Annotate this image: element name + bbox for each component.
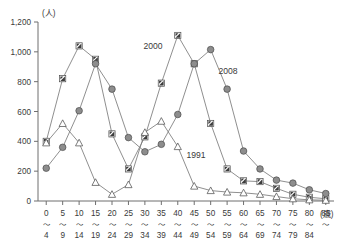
- x-axis-tick-range-tilde: 〜: [76, 220, 84, 229]
- x-axis-tick-label-start: 70: [272, 209, 282, 218]
- x-axis-tick-label-start: 15: [91, 209, 101, 218]
- y-axis-tick-label: 400: [17, 137, 31, 146]
- series-line-2000: [46, 35, 326, 198]
- series-line-group: [46, 35, 326, 200]
- x-axis-tick-range-tilde: 〜: [306, 220, 314, 229]
- series-annotation-2008: 2008: [218, 66, 237, 76]
- x-axis-tick-label-start: 0: [44, 209, 49, 218]
- y-axis-tick-label: 200: [17, 167, 31, 176]
- x-axis-unit-label: (歳): [320, 209, 334, 219]
- x-axis-tick-range-tilde: 〜: [59, 220, 67, 229]
- x-axis-tick-label-end: 44: [173, 231, 183, 240]
- data-point-2000-55: [224, 166, 230, 172]
- data-point-1991-20: [108, 191, 115, 198]
- data-point-2000-60: [240, 178, 246, 184]
- x-axis-tick-label-start: 80: [305, 209, 315, 218]
- series-marker-group: [43, 32, 330, 203]
- x-axis-label-group: 0〜45〜910〜1415〜1920〜2425〜2930〜3435〜3940〜4…: [43, 209, 331, 240]
- data-point-2008-40: [174, 111, 181, 118]
- x-axis-tick-label-start: 65: [255, 209, 265, 218]
- data-point-2008-75: [290, 180, 297, 187]
- line-chart: 02004006008001,0001,200 0〜45〜910〜1415〜19…: [0, 0, 347, 251]
- data-point-2008-80: [306, 187, 313, 194]
- data-point-2008-70: [273, 177, 280, 184]
- data-point-1991-5: [59, 120, 66, 127]
- y-axis-tick-label: 1,200: [11, 18, 32, 27]
- x-axis-tick-label-start: 50: [206, 209, 216, 218]
- x-axis-tick-label-end: 34: [140, 231, 150, 240]
- data-point-1991-15: [92, 179, 99, 186]
- data-point-2000-10: [76, 43, 82, 49]
- x-axis-tick-label-end: 79: [288, 231, 298, 240]
- data-point-1991-25: [125, 181, 132, 188]
- series-annotation-2000: 2000: [143, 41, 162, 51]
- data-point-1991-45: [191, 182, 198, 189]
- data-point-2000-40: [175, 32, 181, 38]
- data-point-2000-35: [158, 80, 164, 86]
- x-axis-tick-label-end: 39: [157, 231, 167, 240]
- chart-container: 02004006008001,0001,200 0〜45〜910〜1415〜19…: [0, 0, 347, 251]
- data-point-2008-20: [109, 86, 116, 93]
- series-annotation-1991: 1991: [186, 150, 205, 160]
- data-point-1991-35: [158, 118, 165, 125]
- x-axis-tick-label-end: 69: [255, 231, 265, 240]
- x-axis-tick-label-end: 49: [190, 231, 200, 240]
- data-point-1991-40: [174, 143, 181, 150]
- series-line-2008: [46, 50, 326, 194]
- x-axis-tick-range-tilde: 〜: [207, 220, 215, 229]
- y-axis-tick-label: 800: [17, 78, 31, 87]
- y-axis-tick-label: 1,000: [11, 48, 32, 57]
- x-axis-tick-label-start: 55: [223, 209, 233, 218]
- data-point-2008-25: [125, 134, 132, 141]
- data-point-2000-20: [109, 131, 115, 137]
- x-axis-tick-range-tilde: 〜: [273, 220, 281, 229]
- x-axis-tick-group: [46, 201, 326, 205]
- x-axis-tick-range-tilde: 〜: [322, 220, 330, 229]
- x-axis-tick-range-tilde: 〜: [125, 220, 133, 229]
- data-point-2008-45: [191, 60, 198, 67]
- x-axis-tick-label-start: 10: [75, 209, 85, 218]
- data-point-2000-70: [273, 185, 279, 191]
- y-axis-tick-label: 600: [17, 108, 31, 117]
- x-axis-tick-label-end: 29: [124, 231, 134, 240]
- x-axis-tick-label-end: 64: [239, 231, 249, 240]
- x-axis-tick-label-start: 75: [288, 209, 298, 218]
- x-axis-tick-range-tilde: 〜: [158, 220, 166, 229]
- y-axis-label-group: 02004006008001,0001,200: [11, 18, 32, 206]
- y-axis-unit-label: (人): [42, 9, 56, 18]
- x-axis-tick-label-end: 54: [206, 231, 216, 240]
- x-axis-tick-label-start: 40: [173, 209, 183, 218]
- x-axis-tick-label-start: 30: [140, 209, 150, 218]
- x-axis-tick-range-tilde: 〜: [92, 220, 100, 229]
- data-point-2000-25: [125, 166, 131, 172]
- x-axis-tick-label-start: 45: [190, 209, 200, 218]
- x-axis-tick-label-start: 20: [107, 209, 117, 218]
- x-axis-tick-range-tilde: 〜: [141, 220, 149, 229]
- x-axis-tick-range-tilde: 〜: [257, 220, 265, 229]
- x-axis-tick-label-end: 4: [44, 231, 49, 240]
- x-axis-tick-label-start: 25: [124, 209, 134, 218]
- x-axis-tick-range-tilde: 〜: [240, 220, 248, 229]
- x-axis-tick-range-tilde: 〜: [224, 220, 232, 229]
- x-axis-tick-range-tilde: 〜: [109, 220, 117, 229]
- data-point-2008-10: [76, 107, 83, 114]
- data-point-2000-5: [60, 76, 66, 82]
- x-axis-tick-label-end: 9: [60, 231, 65, 240]
- data-point-2000-65: [257, 179, 263, 185]
- x-axis-tick-label-end: 84: [305, 231, 315, 240]
- x-axis-tick-label-end: 24: [107, 231, 117, 240]
- x-axis-tick-range-tilde: 〜: [174, 220, 182, 229]
- data-point-2008-5: [59, 144, 66, 151]
- data-point-2008-50: [207, 46, 214, 53]
- data-point-2000-50: [208, 120, 214, 126]
- series-line-1991: [46, 121, 326, 200]
- x-axis-tick-label-start: 60: [239, 209, 249, 218]
- data-point-2008-15: [92, 60, 99, 67]
- data-point-2008-55: [224, 86, 231, 93]
- y-axis-tick-group: [34, 22, 38, 201]
- y-axis-tick-label: 0: [26, 197, 31, 206]
- x-axis-tick-label-start: 35: [157, 209, 167, 218]
- data-point-2008-30: [142, 148, 149, 155]
- data-point-2008-35: [158, 141, 165, 148]
- data-point-2008-0: [43, 165, 50, 172]
